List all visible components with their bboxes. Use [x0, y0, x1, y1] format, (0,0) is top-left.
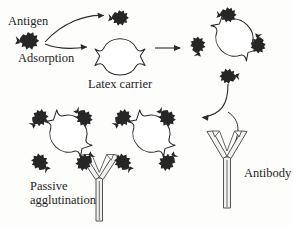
- label-passive-line2: agglutination: [30, 193, 97, 207]
- stage-coated-carrier: [190, 7, 265, 83]
- arrow-icon-antigen-to-carrier: [45, 44, 87, 50]
- latex-carrier-icon: [95, 39, 145, 75]
- cluster-carrier-right: [109, 103, 182, 176]
- antigen-blob-icon: [190, 36, 205, 56]
- label-passive-line1: Passive: [30, 179, 68, 193]
- antibody-y-icon: [207, 131, 247, 208]
- antigen-blob-icon: [108, 10, 129, 26]
- antigen-blob-icon: [219, 69, 239, 84]
- label-latex-carrier: Latex carrier: [88, 77, 153, 91]
- antigen-blob-icon: [28, 150, 54, 176]
- label-adsorption: Adsorption: [18, 51, 75, 65]
- antigen-blob-icon: [109, 106, 135, 132]
- antigen-blob-icon: [111, 150, 137, 176]
- arrow-icon-antigen-to-top: [45, 13, 104, 42]
- arrow-icon-coated-to-cluster: [202, 84, 229, 121]
- cluster-carrier-left: [26, 103, 99, 176]
- antigen-blob-icon: [26, 106, 52, 132]
- stage-latex-carrier: Latex carrier: [88, 10, 153, 91]
- stage-free-antibody: [207, 131, 247, 208]
- arrow-icon-carrier-to-coated: [155, 45, 181, 51]
- stage-free-antigen: Antigen: [8, 14, 49, 50]
- antigen-blob-icon: [15, 32, 39, 50]
- antigen-blob-icon: [155, 148, 181, 174]
- diagram-canvas: Antigen Adsorption Latex carrier: [0, 0, 293, 226]
- label-antigen: Antigen: [8, 14, 49, 28]
- agglutination-diagram: Antigen Adsorption Latex carrier: [0, 0, 293, 226]
- label-antibody: Antibody: [244, 166, 292, 180]
